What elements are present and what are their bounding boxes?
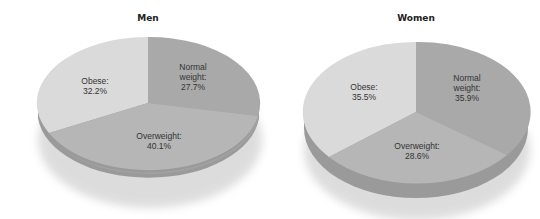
women-label-overweight: Overweight: 28.6% [382,141,452,161]
women-pie-chart: Women Obese: 35.5% Normal weight: 35.9% … [270,0,540,219]
women-label-obese: Obese: 35.5% [329,82,399,102]
women-label-normal: Normal weight: 35.9% [432,73,502,103]
men-label-obese: Obese: 32.2% [60,76,130,96]
men-pie-graphic [0,0,270,219]
men-label-normal: Normal weight: 27.7% [158,62,228,92]
men-label-overweight: Overweight: 40.1% [124,131,194,151]
men-pie-chart: Men Obese: 32.2% Normal weight: 27.7% Ov… [0,0,270,219]
women-pie-graphic [270,0,540,219]
